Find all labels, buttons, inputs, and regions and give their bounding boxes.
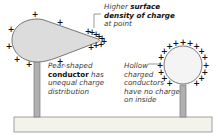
pear-charge-marker: + [14,55,21,64]
pear-label-line4: distribution [48,87,89,96]
pear-conductor-label: Pear-shaped conductor has unequal charge… [48,62,104,96]
point-label-suffix: at point [104,19,132,28]
sphere-charge-marker: + [180,38,187,47]
sphere-charge-marker: + [193,79,200,88]
hollow-label-line5: on inside [124,95,157,104]
pear-charge-marker: + [6,42,13,51]
pear-charge-marker: + [26,60,33,69]
pear-charge-marker: + [57,18,64,27]
point-leader-line [94,14,101,28]
point-density-label: Higher surface density of charge at poin… [104,3,175,29]
pear-charge-marker: + [88,43,95,52]
pear-charge-marker: + [32,10,39,19]
pear-charge-marker: + [8,25,15,34]
hollow-conductor-label: Hollow charged conductors have no charge… [124,62,180,105]
pear-stand [34,60,40,117]
base-platform [14,117,212,132]
sphere-stand [180,85,186,117]
sphere-charge-marker: + [173,39,180,48]
